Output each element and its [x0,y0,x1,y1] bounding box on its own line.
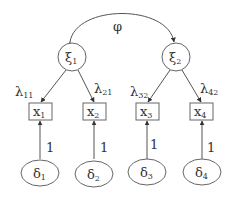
error-d4: δ4 [183,159,221,185]
loading-edge-x2 [78,70,94,102]
indicator-x1: x1 [29,103,52,120]
weight-d3: 1 [150,137,158,152]
indicator-x2: x2 [83,103,106,120]
covariance-arc: φ [70,14,174,43]
lambda11-label: λ11 [15,84,33,100]
error-d3: δ3 [128,159,166,185]
indicator-x4: x4 [190,103,213,120]
loading-edge-x4 [182,70,201,102]
latent-factor-xi1: ξ1 [58,43,86,71]
lambda42-label: λ42 [200,81,218,97]
lambda32-label: λ32 [130,84,148,100]
lambda21-label: λ21 [94,81,112,97]
weight-d2: 1 [100,140,108,155]
weight-d4: 1 [207,140,215,155]
phi-label: φ [113,19,122,34]
indicator-x3: x3 [136,103,159,120]
error-d1: δ1 [21,160,59,186]
latent-factor-xi2: ξ2 [162,43,190,71]
weight-d1: 1 [46,140,54,155]
loading-edge-x3 [148,70,170,102]
error-d2: δ2 [75,161,113,187]
path-diagram: φ ξ1 ξ2 λ11 λ21 λ32 λ42 x1 x2 x3 x4 1 1 … [0,0,234,202]
loading-edge-x1 [41,70,66,102]
